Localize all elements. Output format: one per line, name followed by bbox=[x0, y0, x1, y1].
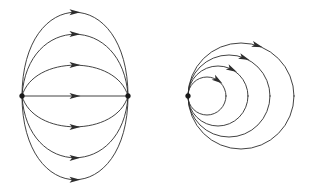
sink-node bbox=[126, 94, 131, 99]
tangent-node bbox=[186, 94, 191, 99]
arrow-circle-3 bbox=[238, 53, 250, 63]
source-node bbox=[20, 94, 25, 99]
circle-2 bbox=[188, 66, 248, 126]
arc-lower-1 bbox=[22, 96, 128, 127]
arrow-circle-4 bbox=[251, 41, 263, 50]
circle-3 bbox=[188, 55, 270, 137]
arc-lower-3 bbox=[22, 96, 128, 180]
dipole-panel bbox=[20, 9, 131, 183]
field-line-diagram bbox=[0, 0, 311, 192]
arc-upper-3 bbox=[22, 12, 128, 96]
arrow-circle-2 bbox=[226, 64, 239, 74]
tangent-circles-panel bbox=[186, 41, 294, 149]
arc-upper-1 bbox=[22, 65, 128, 96]
figure-root bbox=[0, 0, 311, 192]
